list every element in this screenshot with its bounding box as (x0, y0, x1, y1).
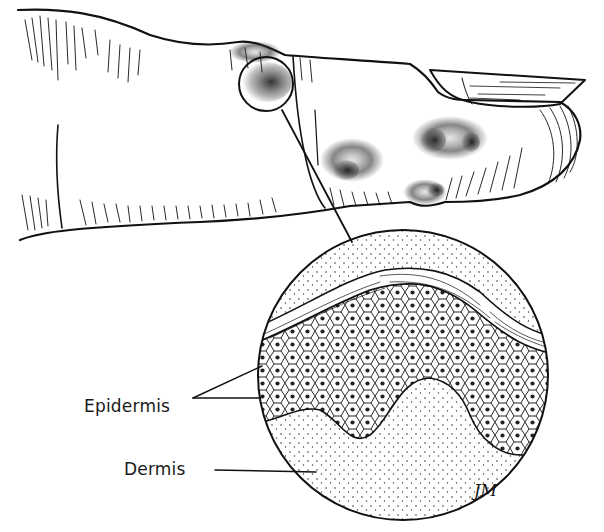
artist-signature: JM (471, 481, 497, 500)
skin-cross-section: JM (250, 230, 560, 530)
label-dermis: Dermis (124, 459, 186, 479)
label-epidermis: Epidermis (84, 396, 170, 416)
wart-lesions (229, 41, 488, 205)
finger-drawing (18, 10, 585, 242)
illustration: JM (0, 0, 604, 532)
